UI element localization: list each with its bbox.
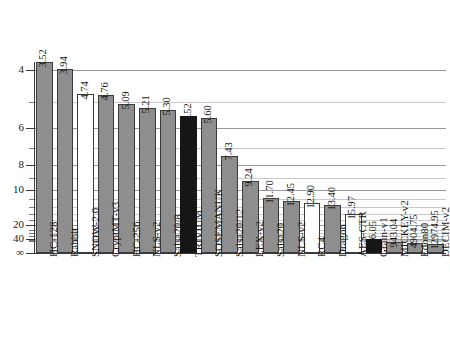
- x-category-label: CryptMT-v3: [110, 202, 121, 257]
- bar-value-label: 12.90: [306, 185, 317, 209]
- y-tick-major: [26, 165, 34, 166]
- y-tick-label: 6: [0, 122, 24, 133]
- y-tick-label: ∞: [0, 247, 24, 258]
- x-category-label: Salsa20/12: [234, 209, 245, 257]
- y-tick-major: [26, 225, 34, 226]
- bar-value-label: 3.94: [58, 56, 69, 74]
- x-category-label: Rabbit: [69, 228, 80, 257]
- bar-value-label: 7.43: [223, 143, 234, 161]
- x-category-label: LEX-v2: [254, 221, 265, 257]
- bar-value-label: 12.45: [285, 183, 296, 207]
- x-category-label: MICKEY-v2: [399, 200, 410, 257]
- x-category-label: DECIM-v2: [440, 207, 450, 257]
- y-tick-label: 4: [0, 64, 24, 75]
- bar-value-label: 3.52: [38, 49, 49, 67]
- y-tick-major: [26, 128, 34, 129]
- y-tick-major: [26, 253, 34, 254]
- bar-chart: 468102040∞ 3.523.944.744.765.095.215.305…: [0, 0, 450, 353]
- x-category-label: RC4: [316, 237, 327, 257]
- x-category-label: HC-128: [48, 222, 59, 257]
- x-category-label: Grain-v1: [378, 217, 389, 257]
- y-tick-label: 8: [0, 159, 24, 170]
- bar-value-label: 4.74: [79, 81, 90, 99]
- bar-value-label: 4.76: [100, 82, 111, 100]
- x-category-label: Salsa20/8: [172, 214, 183, 257]
- x-category-label: Edon80: [419, 223, 430, 257]
- x-category-label: NLS-v2: [296, 222, 307, 257]
- y-tick-label: 40: [0, 233, 24, 244]
- bar-value-label: 13.40: [326, 187, 337, 211]
- bar-value-label: 5.60: [203, 105, 214, 123]
- x-category-label: TRIVIUM: [193, 210, 204, 257]
- bar-value-label: 5.52: [182, 103, 193, 121]
- x-category-label: HC-256: [131, 222, 142, 257]
- bar-value-label: 5.09: [120, 92, 131, 110]
- x-category-label: SOSEMANUK: [213, 189, 224, 257]
- bar-value-label: 11.70: [264, 180, 275, 203]
- bar-value-label: 943.04: [388, 218, 399, 247]
- x-category-label: Salsa20: [275, 223, 286, 257]
- y-tick-major: [26, 70, 34, 71]
- bar-value-label: 5.21: [141, 95, 152, 113]
- y-tick-label: 20: [0, 219, 24, 230]
- y-tick-major: [26, 190, 34, 191]
- x-category-label: SNOW-2.0: [90, 208, 101, 257]
- bar-value-label: 9.24: [244, 168, 255, 186]
- y-tick-label: 10: [0, 184, 24, 195]
- y-tick-major: [26, 239, 34, 240]
- bar-value-label: 5.30: [161, 97, 172, 115]
- x-category-label: Dragon: [337, 224, 348, 257]
- x-category-label: NLS-v2: [151, 222, 162, 257]
- bar: [57, 69, 73, 253]
- x-category-label: AES-CTR: [357, 211, 368, 257]
